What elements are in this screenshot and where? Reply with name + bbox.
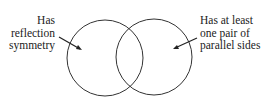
label-line: Has — [9, 14, 55, 27]
label-line: Has at least — [200, 14, 260, 27]
label-line: reflection — [9, 27, 55, 40]
right-set-label: Has at least one pair of parallel sides — [200, 14, 260, 52]
label-line: parallel sides — [200, 39, 260, 52]
label-line: symmetry — [9, 39, 55, 52]
right-arrow — [175, 38, 197, 48]
left-arrowhead — [76, 45, 82, 50]
left-arrow — [59, 37, 80, 49]
label-line: one pair of — [200, 27, 260, 40]
left-set-label: Has reflection symmetry — [9, 14, 55, 52]
left-circle — [67, 20, 143, 96]
right-circle — [116, 19, 192, 95]
